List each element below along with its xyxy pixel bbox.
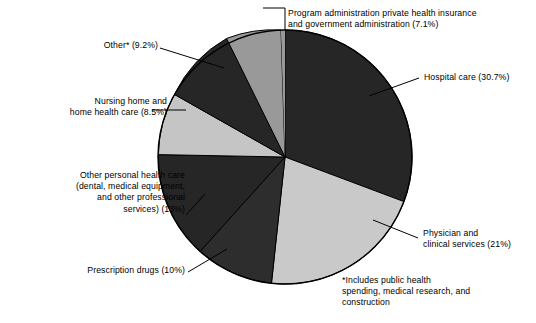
slice-label-prescription-drugs: Prescription drugs (10%) bbox=[10, 265, 185, 276]
slice-label-other: Other* (9.2%) bbox=[28, 40, 158, 51]
slice-label-program-administration: Program administration private health in… bbox=[288, 8, 534, 30]
chart-footnote: *Includes public health spending, medica… bbox=[342, 275, 536, 309]
pie-slices bbox=[158, 30, 412, 284]
pie-chart-figure: Program administration private health in… bbox=[0, 0, 536, 323]
leader-line-program bbox=[263, 8, 285, 30]
slice-label-physician-clinical-services: Physician and clinical services (21%) bbox=[423, 228, 536, 250]
slice-label-hospital-care: Hospital care (30.7%) bbox=[424, 72, 536, 83]
slice-label-other-personal-health-care: Other personal health care (dental, medi… bbox=[6, 170, 185, 215]
slice-label-nursing-home-health-care: Nursing home and home health care (8.5%) bbox=[18, 96, 167, 118]
